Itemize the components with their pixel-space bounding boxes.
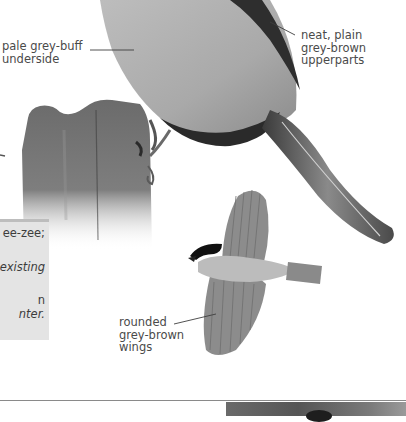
photo-strip xyxy=(226,402,406,416)
photo-subject xyxy=(306,410,332,422)
label-wings: rounded grey-brown wings xyxy=(119,316,184,354)
info-box-line: existing xyxy=(0,261,45,274)
info-box-line: ee-zee; xyxy=(3,227,45,240)
label-upperparts: neat, plain grey-brown upperparts xyxy=(301,29,366,67)
edge-mark xyxy=(0,155,5,156)
info-box: ee-zee; existing n nter. xyxy=(0,219,49,340)
info-box-line: n xyxy=(38,294,45,307)
label-underside: pale grey-buff underside xyxy=(2,40,82,65)
info-box-line: nter. xyxy=(19,308,45,321)
flying-bird xyxy=(188,190,322,355)
section-divider xyxy=(0,400,406,401)
